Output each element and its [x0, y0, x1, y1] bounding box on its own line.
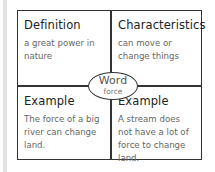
example-quadrant-left: Example The force of a big river can cha…	[18, 87, 110, 159]
quadrant-heading: Characteristics	[118, 18, 196, 32]
left-margin-stripe	[3, 0, 7, 172]
quadrant-text: can move or change things	[118, 37, 196, 63]
center-word-oval: Word force	[88, 72, 138, 100]
center-word: force	[89, 87, 137, 96]
center-label: Word	[89, 75, 137, 87]
definition-quadrant: Definition a great power in nature	[18, 11, 110, 85]
quadrant-heading: Definition	[24, 18, 104, 32]
quadrant-text: The force of a big river can change land…	[24, 113, 104, 152]
quadrant-text: a great power in nature	[24, 37, 104, 63]
quadrant-text: A stream does not have a lot of force to…	[118, 113, 196, 165]
quadrant-heading: Example	[24, 94, 104, 108]
frayer-model-diagram: Definition a great power in nature Chara…	[17, 10, 202, 160]
